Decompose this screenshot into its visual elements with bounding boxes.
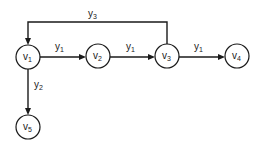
node-v5: v5 <box>16 115 40 139</box>
edge-label-y2: y2 <box>34 79 43 91</box>
edge-v2-to-v3: y1 <box>110 41 155 60</box>
node-v2: v2 <box>86 44 110 68</box>
edge-label-y1: y1 <box>194 41 203 53</box>
arrowhead-icon <box>148 54 155 60</box>
node-v4: v4 <box>225 44 249 68</box>
signal-flow-diagram: y3 y1 y1 y1 y2 v1 v2 v3 v4 <box>0 0 263 146</box>
arrowhead-icon <box>79 54 86 60</box>
arrowhead-icon <box>218 54 225 60</box>
edge-v1-to-v5: y2 <box>25 69 43 115</box>
arrowhead-icon <box>25 38 31 45</box>
arrowhead-icon <box>25 108 31 115</box>
edge-label-y1: y1 <box>55 41 64 53</box>
edge-v3-to-v1: y3 <box>25 8 167 45</box>
edge-label-y3: y3 <box>88 8 97 20</box>
edge-v3-to-v4: y1 <box>179 41 225 60</box>
edge-label-y1: y1 <box>126 41 135 53</box>
node-v1: v1 <box>16 45 40 69</box>
node-v3: v3 <box>155 44 179 68</box>
edge-v1-to-v2: y1 <box>40 41 86 60</box>
